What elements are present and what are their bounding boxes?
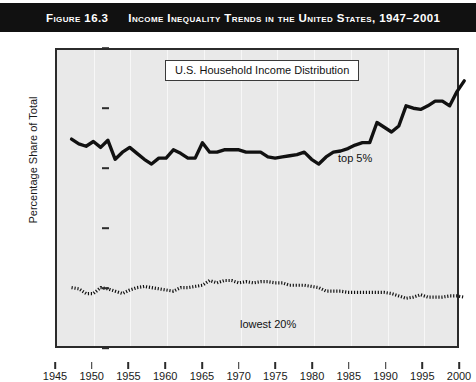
figure-number-label: Figure 16.3: [46, 12, 108, 24]
plot-wrapper: 0510152025 19451950195519601965197019751…: [55, 48, 459, 348]
x-tick-mark: [275, 362, 277, 369]
plot-area: [55, 48, 459, 348]
legend-box: U.S. Household Income Distribution: [165, 60, 359, 81]
series-lines: [57, 50, 457, 347]
series-label-top5: top 5%: [338, 152, 372, 164]
x-tick-mark: [128, 362, 130, 369]
y-tick-mark: [102, 227, 109, 229]
x-tick-mark: [385, 362, 387, 369]
chart-container: Percentage Share of Total 0510152025 194…: [0, 36, 476, 368]
series-line-lowest20: [72, 280, 465, 298]
x-tick-mark: [238, 362, 240, 369]
figure-title-text: Income Inequality Trends in the United S…: [128, 12, 440, 24]
x-tick-mark: [421, 362, 423, 369]
figure-title-banner: Figure 16.3 Income Inequality Trends in …: [0, 3, 476, 32]
x-tick-mark: [54, 362, 56, 369]
y-tick-mark: [102, 347, 109, 349]
bottom-caption-sliver: [0, 371, 476, 377]
y-axis-title: Percentage Share of Total: [27, 75, 39, 245]
y-tick-mark: [102, 107, 109, 109]
x-tick-mark: [311, 362, 313, 369]
x-tick-mark: [91, 362, 93, 369]
banner-text-group: Figure 16.3 Income Inequality Trends in …: [46, 12, 440, 24]
x-tick-mark: [201, 362, 203, 369]
x-tick-mark: [348, 362, 350, 369]
y-tick-mark: [102, 287, 109, 289]
series-label-lowest20: lowest 20%: [240, 318, 296, 330]
series-line-top5: [72, 81, 465, 164]
y-tick-mark: [102, 167, 109, 169]
x-tick-mark: [164, 362, 166, 369]
x-tick-mark: [458, 362, 460, 369]
y-tick-mark: [102, 47, 109, 49]
